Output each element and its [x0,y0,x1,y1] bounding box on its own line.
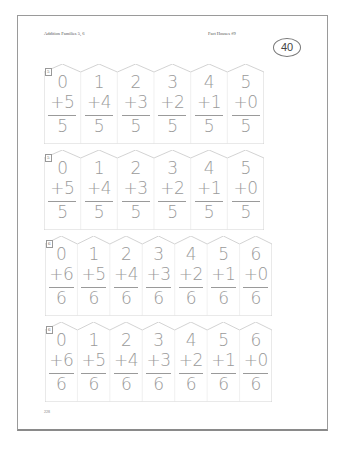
sum: 5 [81,204,118,221]
worksheet-title: Addition Families 5, 6 [44,31,85,36]
addend-top: 5 [227,74,264,91]
addend-top: 1 [81,74,118,91]
sum-line [85,201,113,202]
sum: 6 [142,290,174,307]
addend-top: 2 [117,160,154,177]
sum: 5 [191,204,228,221]
fact-house-strip: 50+551+452+353+254+155+05 [44,150,264,230]
sum-line [146,373,171,374]
addend-bottom: +6 [45,266,77,283]
sum: 6 [110,376,142,393]
page-badge: 40 [273,38,301,57]
addend-top: 3 [142,246,174,263]
sum-line [114,373,139,374]
page-number: 228 [44,409,50,414]
addend-bottom: +4 [110,352,142,369]
addend-top: 3 [154,160,191,177]
addend-top: 6 [240,246,272,263]
sum-line [211,373,236,374]
addend-top: 0 [45,332,77,349]
sum: 5 [117,204,154,221]
addend-bottom: +5 [44,94,81,111]
fact-house: 4+15 [191,150,228,230]
addend-bottom: +1 [191,180,228,197]
fact-house: 2+35 [117,150,154,230]
addend-bottom: +6 [45,352,77,369]
sum: 5 [227,204,264,221]
sum: 6 [110,290,142,307]
addend-bottom: +1 [207,266,239,283]
addend-top: 1 [81,160,118,177]
sum-line [122,115,150,116]
addend-bottom: +5 [77,352,109,369]
sum-line [85,115,113,116]
addend-top: 4 [191,160,228,177]
sum: 6 [45,290,77,307]
fact-house: 5+05 [227,64,264,144]
sum: 5 [81,118,118,135]
sum: 5 [117,118,154,135]
sum: 6 [240,290,272,307]
addend-top: 3 [154,74,191,91]
addend-top: 2 [117,74,154,91]
sum-line [146,287,171,288]
fact-house: 1+56 [77,236,109,316]
fact-house: 6+06 [240,236,272,316]
sum-line [232,201,260,202]
addend-bottom: +0 [227,180,264,197]
addend-top: 0 [44,74,81,91]
addend-top: 2 [110,246,142,263]
addend-bottom: +2 [154,94,191,111]
addend-top: 5 [227,160,264,177]
fact-house: 5+05 [227,150,264,230]
fact-house: 5+16 [207,236,239,316]
addend-bottom: +5 [44,180,81,197]
sum: 6 [175,290,207,307]
fact-house: 2+46 [110,236,142,316]
sum: 6 [77,290,109,307]
sum-line [179,287,204,288]
addend-bottom: +2 [175,352,207,369]
addend-top: 1 [77,332,109,349]
sum-line [195,201,223,202]
addend-top: 6 [240,332,272,349]
sum-line [114,287,139,288]
addend-top: 0 [45,246,77,263]
fact-house: 2+46 [110,322,142,402]
fact-house-strip: 60+661+562+463+364+265+166+06 [45,236,272,316]
fact-house: 0+66 [45,322,77,402]
addend-bottom: +2 [154,180,191,197]
addend-bottom: +3 [142,352,174,369]
addend-top: 2 [110,332,142,349]
fact-house: 0+66 [45,236,77,316]
addend-bottom: +4 [110,266,142,283]
fact-house: 3+25 [154,150,191,230]
addend-bottom: +0 [240,266,272,283]
fact-house: 2+35 [117,64,154,144]
sum-line [195,115,223,116]
fact-house-strip: 60+661+562+463+364+265+166+06 [45,322,272,402]
sum: 6 [45,376,77,393]
sum: 6 [240,376,272,393]
addend-top: 5 [207,246,239,263]
addend-bottom: +3 [117,94,154,111]
addend-bottom: +5 [77,266,109,283]
fact-house-strip: 50+551+452+353+254+155+05 [44,64,264,144]
sum-line [243,287,268,288]
sum-line [122,201,150,202]
sum: 6 [142,376,174,393]
addend-top: 4 [175,246,207,263]
sum: 6 [77,376,109,393]
sum: 5 [44,204,81,221]
sum-line [179,373,204,374]
fact-house: 4+15 [191,64,228,144]
fact-house: 4+26 [175,236,207,316]
addend-bottom: +0 [240,352,272,369]
sum-line [243,373,268,374]
sum: 5 [191,118,228,135]
sum: 5 [154,204,191,221]
fact-house: 3+36 [142,322,174,402]
addend-bottom: +4 [81,180,118,197]
sum: 5 [154,118,191,135]
fact-house: 5+16 [207,322,239,402]
